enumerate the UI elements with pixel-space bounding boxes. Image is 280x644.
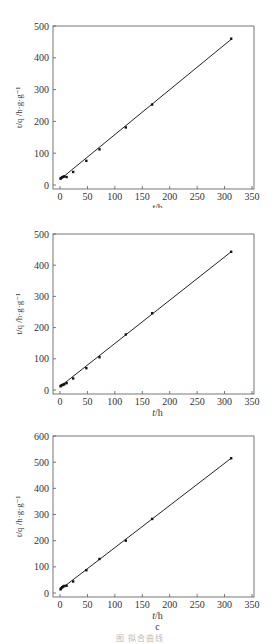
figure-caption: 图 拟合曲线	[0, 632, 280, 643]
x-axis-ticks: 050100150200250300350	[58, 594, 260, 610]
x-tick-label: 300	[217, 599, 232, 610]
x-tick-label: 150	[135, 599, 150, 610]
data-point	[85, 569, 87, 571]
data-point	[151, 518, 153, 520]
data-point	[65, 584, 67, 586]
y-tick-label: 400	[34, 483, 49, 494]
panel-label: c	[155, 621, 160, 632]
chart-panel-c: 0100200300400500600050100150200250300350…	[0, 0, 280, 644]
y-axis-label: t/q /h·g·g⁻¹	[14, 496, 24, 537]
data-point	[72, 580, 74, 582]
x-tick-label: 0	[58, 599, 63, 610]
y-axis-label-text: t/q /h·g·g⁻¹	[14, 496, 24, 537]
x-axis-label: t/h	[152, 610, 163, 621]
y-tick-label: 500	[34, 457, 49, 468]
y-tick-label: 300	[34, 509, 49, 520]
plot-frame	[53, 436, 254, 597]
x-tick-label: 250	[190, 599, 205, 610]
x-tick-label: 200	[162, 599, 177, 610]
data-point	[230, 457, 232, 459]
x-tick-label: 350	[245, 599, 260, 610]
chart-svg: 0100200300400500600050100150200250300350…	[0, 0, 280, 632]
data-point	[98, 558, 100, 560]
data-point	[63, 585, 65, 587]
x-tick-label: 50	[82, 599, 92, 610]
y-tick-label: 600	[34, 431, 49, 442]
y-tick-label: 100	[34, 561, 49, 572]
data-point	[125, 539, 127, 541]
y-tick-label: 200	[34, 535, 49, 546]
y-tick-label: 0	[44, 588, 49, 599]
x-tick-label: 100	[107, 599, 122, 610]
